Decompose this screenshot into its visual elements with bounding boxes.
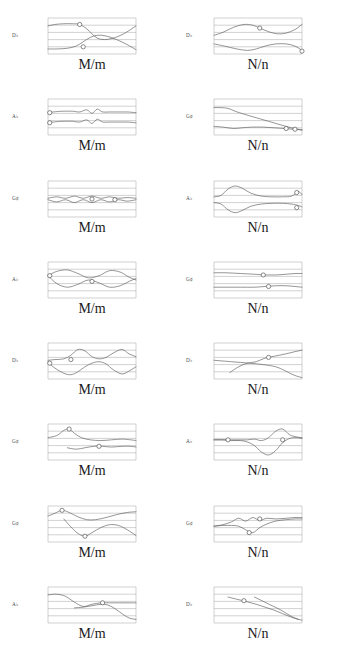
data-point-marker[interactable] <box>226 438 230 442</box>
data-point-marker[interactable] <box>261 273 265 277</box>
data-point-marker[interactable] <box>48 121 52 125</box>
contour-curve-upper <box>214 272 302 274</box>
gridlines <box>48 587 136 623</box>
contour-plot-svg <box>48 262 136 298</box>
marker-group <box>67 427 101 448</box>
plot-cell-inner: D♭N/n <box>172 325 345 406</box>
marker-group <box>60 508 87 538</box>
key-signature-label: A♭ <box>186 439 192 444</box>
panel-caption: N/n <box>214 139 302 153</box>
plot-cell: D♭M/m <box>0 0 172 81</box>
data-point-marker[interactable] <box>90 196 94 200</box>
panel-caption: M/m <box>48 546 136 560</box>
plot-cell: D♭N/n <box>172 325 345 406</box>
plot-cell-inner: G♯M/m <box>0 488 172 569</box>
contour-plot <box>214 587 302 623</box>
data-point-marker[interactable] <box>266 284 270 288</box>
key-signature-label: D♭ <box>186 358 192 363</box>
panel-grid: D♭M/mD♭N/nA♭M/mG♯N/nG♯M/mA♭N/nA♭M/mG♯N/n… <box>0 0 345 650</box>
plot-cell: D♭M/m <box>0 325 172 406</box>
data-point-marker[interactable] <box>97 444 101 448</box>
data-point-marker[interactable] <box>258 26 262 30</box>
panel-caption: M/m <box>48 58 136 72</box>
gridlines <box>214 99 302 135</box>
contour-plot-svg <box>214 343 302 379</box>
panel-caption: M/m <box>48 302 136 316</box>
panel-caption: M/m <box>48 383 136 397</box>
contour-curve-upper <box>48 270 136 280</box>
data-point-marker[interactable] <box>83 534 87 538</box>
contour-curve-upper <box>48 349 136 360</box>
contour-plot-svg <box>214 262 302 298</box>
data-point-marker[interactable] <box>90 279 94 283</box>
contour-curve-upper <box>214 24 302 35</box>
panel-caption: N/n <box>214 383 302 397</box>
contour-plot-svg <box>48 343 136 379</box>
plot-cell-inner: A♭N/n <box>172 406 345 487</box>
data-point-marker[interactable] <box>295 190 299 194</box>
key-signature-label: G♯ <box>186 114 193 119</box>
contour-plot <box>214 262 302 298</box>
contour-plot <box>48 262 136 298</box>
key-signature-label: G♯ <box>186 521 193 526</box>
plot-cell-inner: G♯M/m <box>0 406 172 487</box>
contour-plot <box>214 181 302 217</box>
contour-plot <box>48 18 136 54</box>
curve-group <box>214 108 302 130</box>
data-point-marker[interactable] <box>242 598 246 602</box>
marker-group <box>295 190 299 209</box>
contour-plot <box>214 343 302 379</box>
data-point-marker[interactable] <box>48 361 52 365</box>
curve-group <box>48 270 136 287</box>
curve-group <box>214 350 302 377</box>
data-point-marker[interactable] <box>48 273 52 277</box>
marker-group <box>48 357 73 365</box>
contour-curve-upper <box>230 350 302 372</box>
data-point-marker[interactable] <box>281 438 285 442</box>
data-point-marker[interactable] <box>78 22 82 26</box>
contour-curve-upper <box>48 429 136 441</box>
plot-cell-inner: D♭M/m <box>0 325 172 406</box>
key-signature-label: A♭ <box>12 114 18 119</box>
plot-cell: G♯M/m <box>0 406 172 487</box>
contour-curve-upper <box>48 594 136 606</box>
data-point-marker[interactable] <box>266 355 270 359</box>
data-point-marker[interactable] <box>293 127 297 131</box>
plot-cell-inner: A♭M/m <box>0 569 172 650</box>
plot-cell-inner: A♭M/m <box>0 81 172 162</box>
plot-cell: D♭N/n <box>172 0 345 81</box>
plot-cell-inner: G♯N/n <box>172 488 345 569</box>
marker-group <box>242 598 246 602</box>
data-point-marker[interactable] <box>81 45 85 49</box>
contour-plot <box>48 587 136 623</box>
data-point-marker[interactable] <box>295 205 299 209</box>
key-signature-label: A♭ <box>12 277 18 282</box>
plot-cell-inner: D♭N/n <box>172 0 345 81</box>
plot-cell-inner: G♯N/n <box>172 244 345 325</box>
contour-curve-lower <box>48 119 136 123</box>
panel-caption: N/n <box>214 627 302 641</box>
contour-plot-svg <box>214 424 302 460</box>
panel-caption: M/m <box>48 139 136 153</box>
contour-plot <box>214 506 302 542</box>
data-point-marker[interactable] <box>60 508 64 512</box>
contour-curve-lower <box>214 518 302 532</box>
data-point-marker[interactable] <box>113 197 117 201</box>
gridlines <box>214 506 302 542</box>
plot-cell-inner: D♭N/n <box>172 569 345 650</box>
data-point-marker[interactable] <box>100 600 104 604</box>
data-point-marker[interactable] <box>69 357 73 361</box>
data-point-marker[interactable] <box>48 111 52 115</box>
data-point-marker[interactable] <box>247 530 251 534</box>
contour-curve-lower <box>214 44 302 51</box>
data-point-marker[interactable] <box>67 427 71 431</box>
data-point-marker[interactable] <box>284 127 288 131</box>
contour-curve-lower <box>67 446 136 449</box>
marker-group <box>90 196 117 201</box>
contour-curve-upper <box>48 109 136 113</box>
contour-curve-upper <box>214 108 302 130</box>
data-point-marker[interactable] <box>258 516 262 520</box>
plot-cell-inner: G♯N/n <box>172 81 345 162</box>
data-point-marker[interactable] <box>300 49 304 53</box>
plot-cell: A♭M/m <box>0 569 172 650</box>
